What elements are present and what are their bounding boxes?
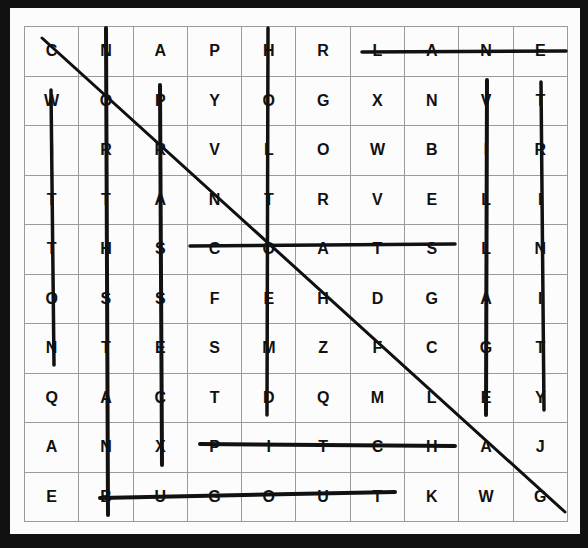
grid-cell[interactable]: R (79, 126, 133, 176)
grid-cell[interactable]: T (25, 176, 79, 226)
grid-cell[interactable]: A (296, 225, 350, 275)
grid-cell[interactable]: N (79, 27, 133, 77)
grid-cell[interactable]: U (134, 473, 188, 523)
grid-cell[interactable]: V (188, 126, 242, 176)
grid-cell[interactable]: T (242, 176, 296, 226)
grid-cell[interactable]: O (242, 77, 296, 127)
grid-cell[interactable]: S (134, 225, 188, 275)
grid-cell[interactable]: S (79, 275, 133, 325)
grid-cell[interactable]: H (405, 423, 459, 473)
grid-cell[interactable]: L (242, 126, 296, 176)
grid-cell[interactable]: B (405, 126, 459, 176)
grid-cell[interactable]: L (459, 176, 513, 226)
grid-cell[interactable]: Z (296, 324, 350, 374)
grid-cell[interactable]: O (242, 473, 296, 523)
grid-cell[interactable]: A (459, 275, 513, 325)
grid-cell[interactable]: Q (25, 374, 79, 424)
grid-cell[interactable]: T (25, 225, 79, 275)
grid-cell[interactable]: V (351, 176, 405, 226)
grid-cell[interactable]: L (351, 27, 405, 77)
grid-cell[interactable]: T (351, 225, 405, 275)
grid-cell[interactable]: Q (296, 374, 350, 424)
grid-cell[interactable]: P (134, 77, 188, 127)
grid-cell[interactable]: A (134, 27, 188, 77)
grid-cell[interactable]: I (514, 176, 568, 226)
grid-cell[interactable]: M (242, 324, 296, 374)
grid-cell[interactable]: N (25, 324, 79, 374)
grid-cell[interactable]: W (25, 77, 79, 127)
grid-cell[interactable]: E (134, 324, 188, 374)
grid-cell[interactable]: F (351, 324, 405, 374)
grid-cell[interactable]: C (134, 374, 188, 424)
grid-cell[interactable]: A (25, 423, 79, 473)
grid-cell[interactable]: I (25, 126, 79, 176)
grid-cell[interactable]: W (351, 126, 405, 176)
grid-cell[interactable]: C (405, 324, 459, 374)
grid-cell[interactable]: C (25, 27, 79, 77)
grid-cell[interactable]: R (296, 27, 350, 77)
grid-cell[interactable]: B (79, 473, 133, 523)
grid-cell[interactable]: X (134, 423, 188, 473)
grid-cell[interactable]: T (79, 176, 133, 226)
grid-cell[interactable]: C (188, 225, 242, 275)
grid-cell[interactable]: T (296, 423, 350, 473)
grid-cell[interactable]: F (188, 275, 242, 325)
grid-cell[interactable]: P (188, 423, 242, 473)
grid-cell[interactable]: O (296, 126, 350, 176)
grid-cell[interactable]: I (242, 423, 296, 473)
grid-cell[interactable]: N (79, 423, 133, 473)
grid-cell[interactable]: E (25, 473, 79, 523)
grid-cell[interactable]: J (514, 423, 568, 473)
grid-cell[interactable]: R (296, 176, 350, 226)
grid-cell[interactable]: Y (188, 77, 242, 127)
grid-cell[interactable]: H (242, 27, 296, 77)
grid-cell[interactable]: T (188, 374, 242, 424)
grid-cell[interactable]: T (79, 324, 133, 374)
grid-cell[interactable]: G (459, 324, 513, 374)
grid-cell[interactable]: O (242, 225, 296, 275)
grid-cell[interactable]: W (459, 473, 513, 523)
grid-cell[interactable]: V (459, 77, 513, 127)
grid-cell[interactable]: E (242, 275, 296, 325)
grid-cell[interactable]: M (351, 374, 405, 424)
grid-cell[interactable]: O (25, 275, 79, 325)
grid-cell[interactable]: N (514, 225, 568, 275)
grid-cell[interactable]: G (514, 473, 568, 523)
grid-cell[interactable]: U (296, 473, 350, 523)
grid-cell[interactable]: H (296, 275, 350, 325)
grid-cell[interactable]: S (188, 324, 242, 374)
grid-cell[interactable]: G (188, 473, 242, 523)
grid-cell[interactable]: G (405, 275, 459, 325)
grid-cell[interactable]: P (188, 27, 242, 77)
grid-cell[interactable]: O (79, 77, 133, 127)
grid-cell[interactable]: E (459, 374, 513, 424)
grid-cell[interactable]: E (514, 27, 568, 77)
grid-cell[interactable]: A (405, 27, 459, 77)
grid-cell[interactable]: D (242, 374, 296, 424)
grid-cell[interactable]: T (351, 473, 405, 523)
grid-cell[interactable]: A (459, 423, 513, 473)
grid-cell[interactable]: N (188, 176, 242, 226)
grid-cell[interactable]: H (79, 225, 133, 275)
grid-cell[interactable]: I (514, 275, 568, 325)
grid-cell[interactable]: T (514, 77, 568, 127)
grid-cell[interactable]: C (351, 423, 405, 473)
grid-cell[interactable]: G (296, 77, 350, 127)
grid-cell[interactable]: L (459, 225, 513, 275)
grid-cell[interactable]: A (79, 374, 133, 424)
grid-cell[interactable]: N (459, 27, 513, 77)
grid-cell[interactable]: R (134, 126, 188, 176)
grid-cell[interactable]: L (405, 374, 459, 424)
grid-cell[interactable]: K (405, 473, 459, 523)
grid-cell[interactable]: I (459, 126, 513, 176)
grid-cell[interactable]: E (405, 176, 459, 226)
grid-cell[interactable]: T (514, 324, 568, 374)
grid-cell[interactable]: A (134, 176, 188, 226)
grid-cell[interactable]: D (351, 275, 405, 325)
grid-cell[interactable]: S (134, 275, 188, 325)
grid-cell[interactable]: N (405, 77, 459, 127)
grid-cell[interactable]: R (514, 126, 568, 176)
grid-cell[interactable]: X (351, 77, 405, 127)
grid-cell[interactable]: S (405, 225, 459, 275)
grid-cell[interactable]: Y (514, 374, 568, 424)
